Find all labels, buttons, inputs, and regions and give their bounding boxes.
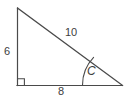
right-triangle-figure: 6 8 10 C <box>0 0 130 102</box>
vertical-leg-label: 6 <box>4 46 10 57</box>
angle-c-label: C <box>87 65 96 77</box>
hypotenuse-label: 10 <box>65 27 77 38</box>
hypotenuse-line <box>18 8 123 86</box>
horizontal-leg-label: 8 <box>58 86 64 97</box>
right-angle-square-icon <box>18 79 25 85</box>
triangle-graphic <box>0 0 130 102</box>
